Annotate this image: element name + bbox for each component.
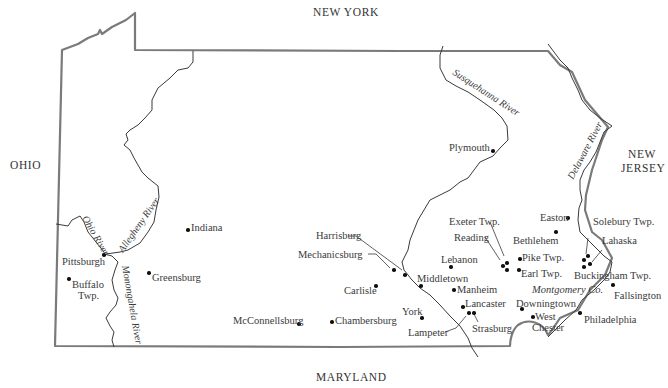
mechanicsburg-dot [392,268,396,272]
indiana-dot [186,228,190,232]
label-plymouth: Plymouth [449,142,490,153]
neighbor-new-jersey-line2: JERSEY [621,161,666,176]
label-lancaster: Lancaster [465,298,506,309]
neighbor-new-york: NEW YORK [313,5,379,20]
label-york: York [402,306,423,317]
label-buffalo-line1: Buffalo [72,279,104,290]
label-montgomery-county: Montgomery Co. [532,284,603,295]
lebanon-dot [449,265,453,269]
label-buckingham: Buckingham Twp. [574,270,651,281]
label-reading: Reading [454,232,489,243]
exeter-dot [505,261,509,265]
lampeter-dot [467,311,471,315]
fallsington-dot [611,283,615,287]
middletown-dot [419,284,423,288]
harrisburg-dot [403,273,407,277]
label-downingtown: Downingtown [516,298,576,309]
label-harrisburg: Harrisburg [316,230,361,241]
monongahela-river-label: Monongahela River [120,263,145,344]
label-greensburg: Greensburg [152,272,201,283]
buckingham-dot [582,265,586,269]
label-west-chester-line1: West [535,311,556,322]
chambersburg-dot [330,320,334,324]
label-exeter: Exeter Twp. [449,216,500,227]
exeter-dot-2 [505,268,509,272]
label-pike: Pike Twp. [522,252,564,263]
mechanicsburg-leader [368,254,390,268]
label-solebury: Solebury Twp. [593,216,655,227]
label-mechanicsburg: Mechanicsburg [298,249,363,260]
solebury-leader [586,238,588,254]
state-border [55,13,612,347]
pennsylvania-map: Allegheny River Ohio River Monongahela R… [0,0,668,388]
label-west-chester-line2: Chester [532,322,564,333]
neighbor-ohio: OHIO [10,158,41,173]
label-earl: Earl Twp. [521,268,562,279]
lahaska-dot [588,262,592,266]
label-philadelphia: Philadelphia [584,314,637,325]
label-lebanon: Lebanon [441,254,478,265]
label-middletown: Middletown [417,273,468,284]
label-manheim: Manheim [457,284,497,295]
label-pittsburgh: Pittsburgh [62,256,105,267]
strasburg-dot [472,311,476,315]
bethlehem-dot [554,230,558,234]
plymouth-dot [491,149,495,153]
philadelphia-dot [578,311,582,315]
strasburg-leader [474,314,478,322]
lahaska-leader [592,250,602,262]
label-lampeter: Lampeter [408,327,448,338]
buffalo-dot [67,277,71,281]
pike-dot [518,257,522,261]
label-bethlehem: Bethlehem [513,235,559,246]
west-chester-dot [531,315,535,319]
label-strasburg: Strasburg [472,323,512,334]
susquehanna-river-label: Susquehanna River [451,66,522,117]
greensburg-dot [147,271,151,275]
solebury-dot [586,254,590,258]
map-lines: Allegheny River Ohio River Monongahela R… [0,0,668,388]
reading-dot [501,264,505,268]
exeter-leader [490,222,504,256]
manheim-dot [452,288,456,292]
monongahela-river [104,254,118,347]
ohio-river-label: Ohio River [80,214,112,258]
label-mcconnellsburg: McConnellsburg [233,315,303,326]
label-lahaska: Lahaska [602,235,637,246]
allegheny-river [106,51,193,254]
label-fallsington: Fallsington [614,290,661,301]
neighbor-new-jersey-line1: NEW [628,147,656,162]
lancaster-dot [461,305,465,309]
buckingham-dot-2 [582,258,586,262]
label-chambersburg: Chambersburg [335,315,397,326]
neighbor-maryland: MARYLAND [316,370,387,385]
label-carlisle: Carlisle [344,285,377,296]
label-buffalo-line2: Twp. [78,290,99,301]
earl-dot [517,268,521,272]
label-easton: Easton [540,212,569,223]
label-indiana: Indiana [191,222,223,233]
allegheny-river-label: Allegheny River [115,195,161,255]
